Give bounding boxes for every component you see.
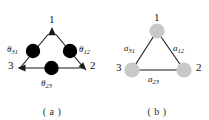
panel-a: 1 3 2 θ31 θ12 θ23 ( a ) — [0, 0, 104, 120]
panel-b-vertex-label-2: 2 — [196, 62, 202, 73]
panel-b-a23-symbol: a — [148, 74, 153, 84]
panel-a-node-31 — [26, 44, 40, 58]
panel-b-caption: ( b ) — [105, 106, 209, 117]
panel-b-edge-label-a23: a23 — [148, 75, 159, 84]
panel-a-vertex-label-2: 2 — [90, 60, 96, 71]
panel-a-caption: ( a ) — [0, 106, 104, 117]
panel-a-vertex-label-1: 1 — [49, 14, 55, 25]
figure-root: 1 3 2 θ31 θ12 θ23 ( a ) 1 3 2 a31 — [0, 0, 209, 120]
panel-a-edge-label-theta31: θ31 — [7, 45, 18, 54]
panel-a-node-23 — [44, 61, 58, 75]
panel-b-a12-symbol: a — [173, 43, 178, 53]
panel-b-node-3 — [124, 62, 139, 77]
panel-b-a31-symbol: a — [124, 43, 129, 53]
panel-a-theta12-subscript: 12 — [83, 48, 90, 55]
panel-b-edge-label-a12: a12 — [173, 44, 184, 53]
panel-a-node-12 — [63, 44, 77, 58]
panel-b-vertex-label-3: 3 — [116, 62, 122, 73]
panel-a-vertex-label-3: 3 — [8, 60, 14, 71]
panel-b-a12-subscript: 12 — [178, 47, 185, 54]
panel-a-edge-label-theta12: θ12 — [79, 45, 90, 54]
panel-b-node-2 — [176, 62, 191, 77]
panel-b-edge-label-a31: a31 — [124, 44, 135, 53]
panel-b-vertex-label-1: 1 — [154, 12, 160, 23]
panel-b-node-1 — [149, 23, 164, 38]
panel-a-arrowhead-to-1 — [48, 27, 56, 35]
panel-a-edge-label-theta23: θ23 — [41, 79, 52, 88]
panel-b-a31-subscript: 31 — [129, 47, 136, 54]
panel-a-theta31-subscript: 31 — [11, 48, 18, 55]
panel-a-theta23-subscript: 23 — [45, 82, 52, 89]
panel-b: 1 3 2 a31 a12 a23 ( b ) — [105, 0, 209, 120]
panel-b-a23-subscript: 23 — [153, 78, 160, 85]
